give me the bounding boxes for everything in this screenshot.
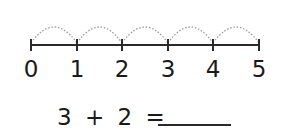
tick-label: 0 — [16, 55, 46, 83]
hop-arc — [77, 27, 122, 43]
tick-label: 3 — [153, 55, 183, 83]
number-line — [0, 0, 284, 60]
addend-b: 2 — [118, 103, 133, 131]
answer-blank[interactable] — [158, 124, 231, 126]
hop-arc — [122, 27, 168, 43]
tick-label: 1 — [62, 55, 92, 83]
hop-arc — [31, 27, 77, 43]
hop-arc — [213, 27, 259, 43]
hop-arc — [168, 27, 213, 43]
hop-arcs — [31, 27, 259, 43]
tick-label: 2 — [107, 55, 137, 83]
tick-label: 5 — [244, 55, 274, 83]
plus-sign: + — [85, 103, 104, 131]
addend-a: 3 — [57, 103, 72, 131]
equation: 3 + 2 = — [57, 103, 165, 131]
tick-label: 4 — [198, 55, 228, 83]
equals-sign: = — [146, 103, 165, 131]
